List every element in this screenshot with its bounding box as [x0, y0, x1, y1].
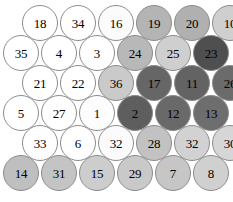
node-label: 25 [167, 47, 180, 60]
node-label: 27 [53, 107, 66, 120]
node-label: 4 [56, 47, 62, 60]
node-label: 32 [186, 137, 199, 150]
node-label: 20 [186, 17, 199, 30]
node-label: 11 [186, 77, 198, 90]
node-label: 3 [94, 47, 100, 60]
node-label: 8 [208, 167, 214, 180]
node-label: 31 [53, 167, 66, 180]
node-label: 6 [75, 137, 81, 150]
node-label: 21 [34, 77, 47, 90]
node-circle-31[interactable]: 31 [41, 155, 77, 191]
node-label: 26 [224, 77, 233, 90]
node-label: 36 [110, 77, 123, 90]
node-label: 34 [72, 17, 85, 30]
node-label: 33 [34, 137, 47, 150]
node-circle-8[interactable]: 8 [193, 155, 229, 191]
node-circle-14[interactable]: 14 [3, 155, 39, 191]
node-label: 17 [148, 77, 161, 90]
node-label: 22 [72, 77, 85, 90]
node-circle-29[interactable]: 29 [117, 155, 153, 191]
hexagonal-node-map: 1834161920103543242523212236171126527121… [0, 0, 233, 202]
node-label: 1 [94, 107, 100, 120]
node-label: 5 [18, 107, 24, 120]
node-circle-15[interactable]: 15 [79, 155, 115, 191]
node-label: 30 [224, 137, 233, 150]
node-label: 19 [148, 17, 161, 30]
node-label: 18 [34, 17, 47, 30]
node-label: 13 [205, 107, 218, 120]
node-label: 14 [15, 167, 28, 180]
node-label: 29 [129, 167, 142, 180]
node-label: 12 [167, 107, 180, 120]
node-circle-7[interactable]: 7 [155, 155, 191, 191]
node-label: 16 [110, 17, 123, 30]
node-label: 35 [15, 47, 28, 60]
hex-row: 1431152978 [0, 155, 233, 193]
node-label: 7 [170, 167, 176, 180]
node-label: 32 [110, 137, 123, 150]
node-label: 28 [148, 137, 161, 150]
node-label: 10 [224, 17, 233, 30]
node-label: 15 [91, 167, 104, 180]
node-label: 24 [129, 47, 142, 60]
node-label: 23 [205, 47, 218, 60]
node-label: 2 [132, 107, 138, 120]
